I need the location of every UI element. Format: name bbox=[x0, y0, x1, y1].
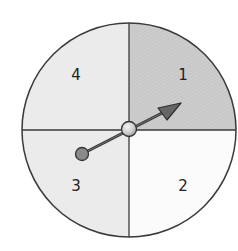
section-label-1: 1 bbox=[178, 66, 188, 84]
spinner-hub[interactable] bbox=[122, 122, 137, 137]
section-label-4: 4 bbox=[71, 66, 81, 84]
arrow-tail-knob bbox=[76, 148, 89, 161]
section-label-3: 3 bbox=[71, 177, 81, 195]
spinner-diagram: 4 1 3 2 bbox=[0, 0, 238, 251]
section-label-2: 2 bbox=[178, 177, 188, 195]
